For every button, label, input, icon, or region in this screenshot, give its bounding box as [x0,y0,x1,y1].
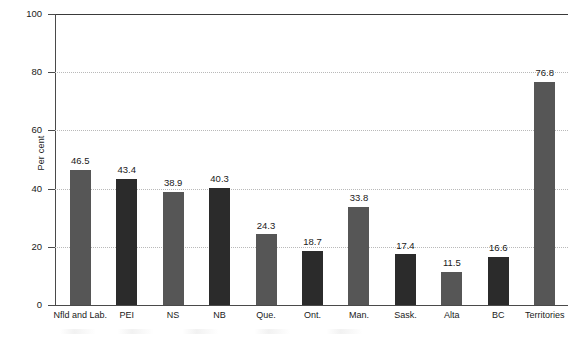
x-tick-label: NS [167,311,180,320]
x-category-slot: Sask. [382,0,428,338]
x-tick-label: Territories [525,311,565,320]
x-category-slot: Alta [429,0,475,338]
bar-chart: Per cent 020406080100 46.543.438.940.324… [0,0,582,338]
x-tick-label: Que. [256,311,276,320]
x-tick-label: PEI [119,311,134,320]
x-category-slot: Ont. [289,0,335,338]
x-tick-label: NB [213,311,226,320]
x-category-slot: NB [196,0,242,338]
x-axis-categories: Nfld and Lab.PEINSNBQue.Ont.Man.Sask.Alt… [0,0,582,338]
x-tick-label: Alta [444,311,460,320]
x-category-slot: BC [475,0,521,338]
x-category-slot: Territories [522,0,568,338]
x-tick-label: BC [492,311,505,320]
x-category-slot: Man. [336,0,382,338]
x-tick-label: Man. [349,311,369,320]
x-tick-label: Nfld and Lab. [53,311,107,320]
x-category-slot: NS [150,0,196,338]
x-category-slot: Que. [243,0,289,338]
x-tick-label: Ont. [304,311,321,320]
x-category-slot: PEI [103,0,149,338]
x-tick-label: Sask. [394,311,417,320]
x-category-slot: Nfld and Lab. [57,0,103,338]
scan-artifact [60,329,420,334]
